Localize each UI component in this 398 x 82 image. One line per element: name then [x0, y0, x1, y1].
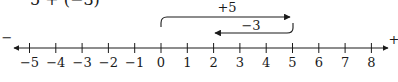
move-minus-3-label: −3 — [241, 18, 260, 33]
move-plus-5-arrow — [161, 17, 290, 27]
tick-label: −4 — [46, 55, 65, 70]
tick-label: 8 — [367, 55, 375, 70]
tick-label: 7 — [341, 55, 349, 70]
tick-label: −2 — [99, 55, 118, 70]
tick-label: −5 — [20, 55, 39, 70]
tick-label: 0 — [157, 55, 165, 70]
tick-label: 5 — [288, 55, 296, 70]
tick-label: 6 — [315, 55, 323, 70]
tick-label: 1 — [183, 55, 191, 70]
tick-label: 4 — [262, 55, 270, 70]
tick-label: 2 — [209, 55, 217, 70]
tick-labels: −5 −4 −3 −2 −1 0 1 2 3 4 5 6 7 8 — [20, 55, 376, 70]
tick-label: −1 — [125, 55, 144, 70]
negative-direction-label: − — [2, 30, 13, 45]
tick-label: −3 — [73, 55, 92, 70]
number-line-diagram: 5 + (−3) +5 −3 − + — [0, 0, 398, 82]
tick-label: 3 — [236, 55, 244, 70]
move-plus-5-label: +5 — [217, 0, 236, 15]
positive-direction-label: + — [389, 32, 398, 47]
expression-title: 5 + (−3) — [30, 0, 100, 9]
